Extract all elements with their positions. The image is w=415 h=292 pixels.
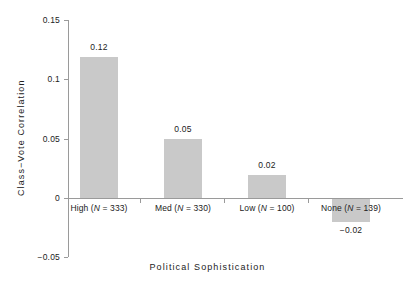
category-label-high: High (N = 333) [54,203,144,213]
bar-value-med: 0.05 [153,124,213,134]
x-axis-title: Political Sophistication [0,262,415,272]
bar-value-low: 0.02 [237,160,297,170]
bar-value-high: 0.12 [69,42,129,52]
bar-high [80,57,118,198]
n-italic-high: N [94,203,100,213]
y-tick-mark-0 [64,20,68,21]
y-tick-mark-4 [64,257,68,258]
y-tick-label-4: −0.05 [14,252,60,262]
category-label-none: None (N = 139) [306,203,396,213]
bar-chart: 0.15 0.1 0.05 0 −0.05 0.12 0.05 0.02 −0.… [0,0,415,292]
bar-value-none: −0.02 [321,225,381,235]
category-label-med: Med (N = 330) [138,203,228,213]
bar-low [248,175,286,198]
category-label-low: Low (N = 100) [222,203,312,213]
y-tick-mark-2 [64,139,68,140]
n-italic-med: N [177,203,183,213]
y-axis-line [68,20,69,257]
bar-med [164,139,202,198]
y-axis-title: Class−Vote Correlation [16,80,26,197]
y-tick-label-0: 0.15 [18,15,60,25]
n-italic-none: N [347,203,353,213]
n-italic-low: N [261,203,267,213]
y-tick-mark-1 [64,79,68,80]
